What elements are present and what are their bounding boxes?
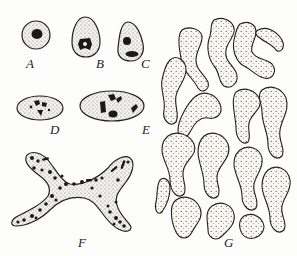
label-f: F <box>78 236 86 249</box>
label-c: C <box>141 57 150 70</box>
nucleus-d <box>17 96 63 120</box>
nucleus-b <box>72 17 100 57</box>
nucleus-g <box>155 18 290 238</box>
label-e: E <box>142 123 150 136</box>
label-g: G <box>224 236 233 249</box>
label-b: B <box>96 57 104 70</box>
label-d: D <box>50 123 59 136</box>
nuclei-figure: A B C D E F G <box>0 0 297 256</box>
nucleus-f <box>12 153 133 232</box>
nucleus-c <box>118 22 144 61</box>
nucleus-e <box>80 91 144 121</box>
nucleus-a <box>22 21 50 49</box>
label-a: A <box>26 57 34 70</box>
